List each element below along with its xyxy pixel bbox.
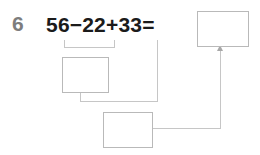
equals-sign: =: [142, 13, 154, 36]
equation-expression: 56−22+33=: [46, 13, 155, 37]
operand-2: 22: [82, 13, 106, 36]
connector-middle-box-horizontal: [80, 101, 158, 102]
second-intermediate-result-box[interactable]: [103, 112, 153, 148]
operand-1: 56: [46, 13, 70, 36]
operator-plus: +: [106, 13, 118, 36]
grouping-bracket-tick-left: [64, 40, 65, 48]
grouping-bracket-base: [64, 47, 115, 48]
connector-bottom-box-rise: [220, 50, 221, 129]
intermediate-result-box[interactable]: [62, 57, 109, 93]
final-answer-box[interactable]: [197, 11, 249, 47]
connector-bottom-box-horizontal: [153, 128, 221, 129]
grouping-bracket-tick-right: [114, 40, 115, 48]
operand-3: 33: [118, 13, 142, 36]
math-worksheet-problem: 6 56−22+33=: [0, 0, 260, 155]
connector-third-term-drop: [157, 40, 158, 102]
operator-minus: −: [70, 13, 82, 36]
problem-number: 6: [12, 13, 24, 35]
